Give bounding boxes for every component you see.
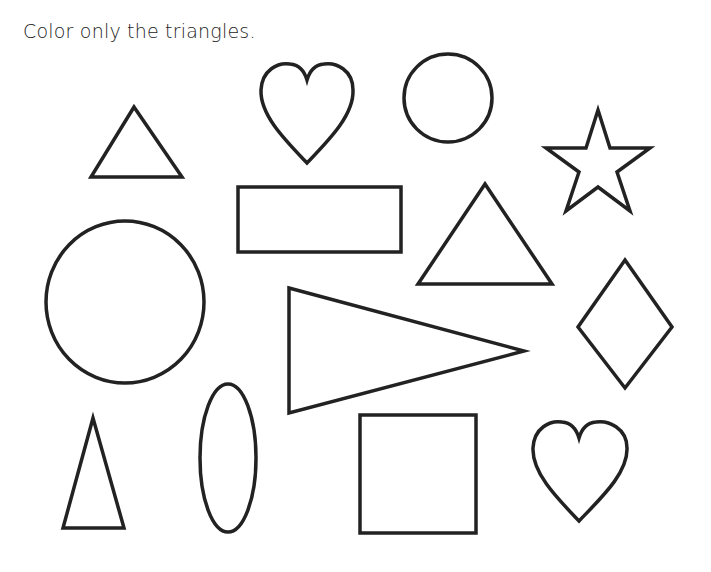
heart-shape[interactable] [261,64,353,163]
diamond-shape[interactable] [578,260,672,388]
star-shape[interactable] [546,110,650,211]
triangle-shape[interactable] [418,184,552,284]
square-shape[interactable] [360,415,476,533]
triangle-shape[interactable] [289,288,524,413]
circle-shape[interactable] [404,54,492,142]
triangle-shape[interactable] [91,107,182,177]
rectangle-shape[interactable] [238,187,401,252]
worksheet-page: Color only the triangles. [0,0,711,572]
triangle-shape[interactable] [63,418,124,528]
heart-shape[interactable] [533,422,627,521]
circle-shape[interactable] [46,221,204,383]
shapes-canvas [0,0,711,572]
oval-shape[interactable] [200,384,256,532]
